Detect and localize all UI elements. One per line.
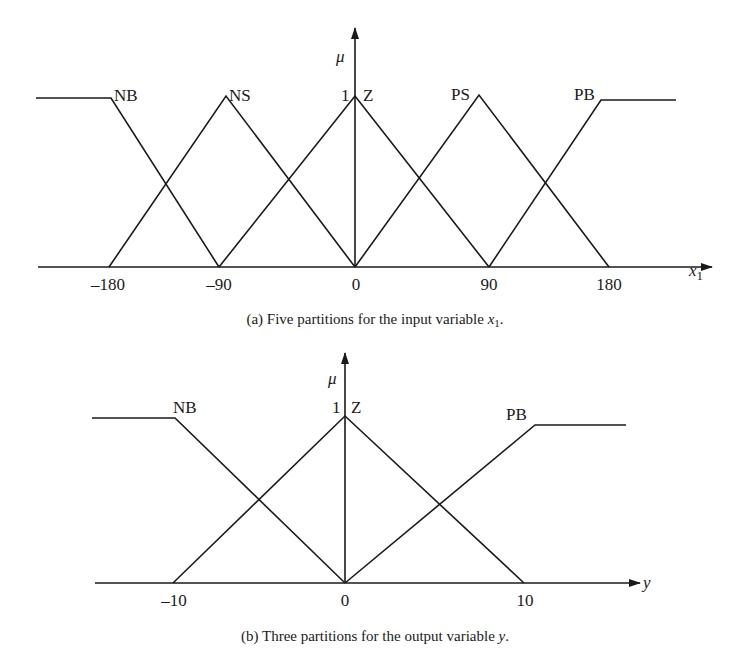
label-Z-b: Z (351, 398, 361, 417)
peak-label-b: 1 (332, 398, 341, 417)
x-label-b: y (641, 573, 651, 592)
tick-a-0: 0 (352, 275, 361, 294)
series-Z-a (219, 96, 489, 267)
chart-b: NB Z PB 1 μ –10 0 10 y (b) Three partiti… (92, 353, 651, 645)
series-PB-b (345, 425, 626, 583)
series-NB-b (92, 418, 345, 583)
label-PB-a: PB (574, 85, 595, 104)
series-Z-b (173, 416, 524, 583)
mu-label-a: μ (335, 47, 345, 66)
series-NB-a (36, 98, 219, 267)
tick-a-90: 90 (481, 275, 498, 294)
label-NS-a: NS (229, 86, 251, 105)
series-NS-a (109, 96, 355, 267)
series-PS-a (355, 95, 609, 267)
label-NB-b: NB (173, 398, 197, 417)
tick-a-180: 180 (596, 275, 622, 294)
label-NB-a: NB (114, 86, 138, 105)
tick-b-neg10: –10 (160, 591, 187, 610)
peak-label-a: 1 (341, 86, 350, 105)
tick-a-neg180: –180 (90, 275, 125, 294)
mu-label-b: μ (327, 369, 337, 388)
caption-a: (a) Five partitions for the input variab… (246, 311, 503, 329)
caption-b: (b) Three partitions for the output vari… (241, 628, 509, 645)
series-PB-a (489, 100, 676, 267)
tick-a-neg90: –90 (205, 275, 232, 294)
x-label-a: x1 (688, 261, 703, 283)
figure: NB NS Z PS PB 1 μ –180 –90 0 90 180 x1 (… (0, 0, 746, 658)
label-PB-b: PB (506, 405, 527, 424)
label-Z-a: Z (363, 86, 373, 105)
label-PS-a: PS (451, 85, 470, 104)
chart-a: NB NS Z PS PB 1 μ –180 –90 0 90 180 x1 (… (36, 28, 712, 329)
tick-b-0: 0 (341, 591, 350, 610)
tick-b-10: 10 (517, 591, 534, 610)
